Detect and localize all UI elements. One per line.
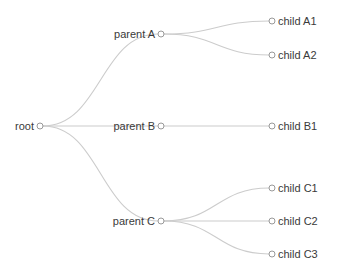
node-label-parentB: parent B [113,120,155,132]
tree-link-root-to-parentC [43,126,158,221]
node-label-childC1: child C1 [278,182,318,194]
node-circle-icon-parentA[interactable] [158,31,164,37]
tree-node-childC1[interactable]: child C1 [269,182,318,194]
node-label-parentC: parent C [113,215,155,227]
node-circle-icon-childC1[interactable] [269,185,275,191]
tree-link-parentC-to-childC3 [164,221,269,254]
node-circle-icon-childA1[interactable] [269,18,275,24]
tree-node-childC2[interactable]: child C2 [269,215,318,227]
tree-node-root[interactable]: root [15,120,43,132]
tree-link-parentC-to-childC1 [164,188,269,221]
node-circle-icon-childB1[interactable] [269,123,275,129]
tree-link-parentA-to-childA1 [164,21,269,34]
tree-node-childC3[interactable]: child C3 [269,248,318,260]
node-label-childA2: child A2 [278,49,317,61]
nodes-layer: rootparent Aparent Bparent Cchild A1chil… [15,15,318,260]
node-circle-icon-childC2[interactable] [269,218,275,224]
node-circle-icon-childC3[interactable] [269,251,275,257]
node-circle-icon-root[interactable] [37,123,43,129]
node-label-childC2: child C2 [278,215,318,227]
tree-link-root-to-parentA [43,34,158,126]
links-layer [43,21,269,254]
node-label-childC3: child C3 [278,248,318,260]
tree-node-childA2[interactable]: child A2 [269,49,317,61]
node-circle-icon-parentC[interactable] [158,218,164,224]
node-label-childA1: child A1 [278,15,317,27]
node-label-parentA: parent A [114,28,156,40]
node-label-root: root [15,120,34,132]
tree-node-childA1[interactable]: child A1 [269,15,317,27]
tree-node-childB1[interactable]: child B1 [269,120,317,132]
node-label-childB1: child B1 [278,120,317,132]
tree-link-parentA-to-childA2 [164,34,269,55]
node-circle-icon-childA2[interactable] [269,52,275,58]
tree-diagram: rootparent Aparent Bparent Cchild A1chil… [0,0,339,277]
node-circle-icon-parentB[interactable] [158,123,164,129]
tree-svg: rootparent Aparent Bparent Cchild A1chil… [0,0,339,277]
